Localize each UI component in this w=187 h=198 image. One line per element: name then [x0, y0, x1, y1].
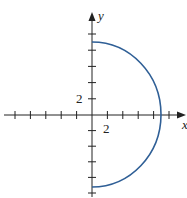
y-axis-arrow-icon — [89, 12, 96, 21]
y-tick-label: 2 — [76, 91, 83, 106]
y-axis-label: y — [96, 8, 104, 23]
x-tick-label: 2 — [103, 121, 110, 136]
graph: y x 2 2 — [0, 0, 187, 198]
x-axis-label: x — [181, 117, 187, 132]
